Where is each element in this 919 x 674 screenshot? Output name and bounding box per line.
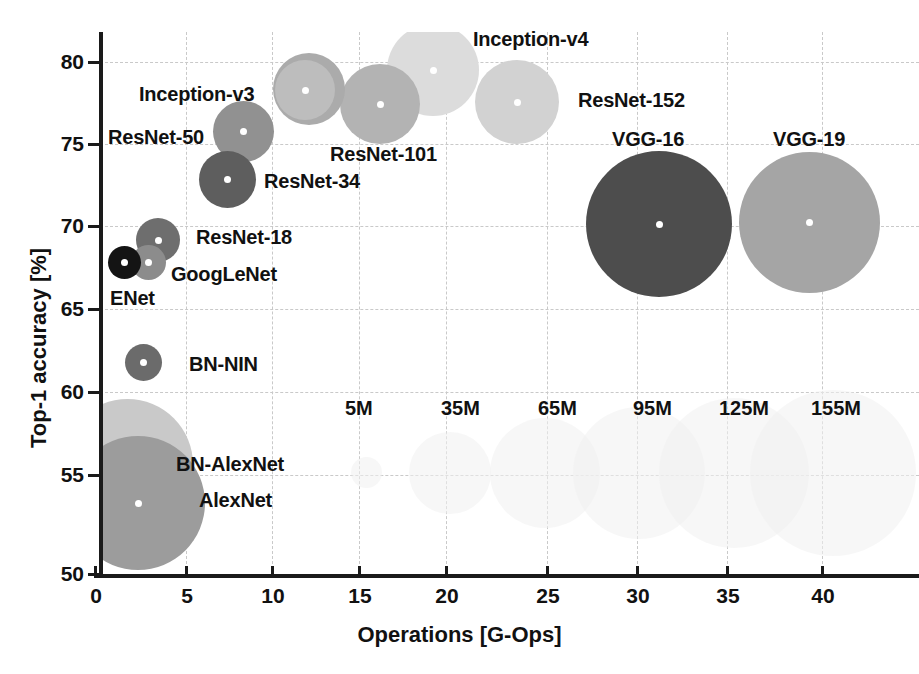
size-legend-label-65m: 65M	[538, 397, 577, 420]
label-resnet-101: ResNet-101	[330, 143, 437, 166]
label-resnet-152: ResNet-152	[578, 89, 685, 112]
bubble-center-dot	[430, 67, 437, 74]
y-tick-label-80: 80	[38, 50, 84, 74]
size-legend-bubble-5m	[351, 457, 382, 488]
y-tick-70	[88, 225, 100, 228]
x-tick-label-0: 0	[71, 584, 121, 608]
bubble-center-dot	[140, 359, 147, 366]
bubble-inception-v4[interactable]	[475, 60, 559, 144]
size-legend-label-5m: 5M	[345, 397, 373, 420]
y-tick-label-75: 75	[38, 132, 84, 156]
y-tick-label-50: 50	[38, 562, 84, 586]
y-tick-55	[88, 474, 100, 477]
gridline-horizontal	[100, 392, 919, 393]
bubble-enet[interactable]	[108, 246, 141, 279]
x-axis-line	[95, 574, 919, 578]
bubble-center-dot	[806, 219, 813, 226]
x-tick-25	[546, 566, 549, 578]
y-axis-line	[99, 32, 103, 576]
x-tick-15	[358, 566, 361, 578]
bubble-center-dot	[121, 259, 128, 266]
x-tick-10	[271, 566, 274, 578]
x-tick-label-20: 20	[422, 584, 472, 608]
bubble-center-dot	[155, 237, 162, 244]
size-legend-label-35m: 35M	[441, 397, 480, 420]
x-tick-5	[185, 566, 188, 578]
bubble-vgg-16[interactable]	[586, 151, 732, 297]
gridline-vertical	[272, 32, 273, 574]
y-axis-title: Top-1 accuracy [%]	[26, 248, 52, 448]
x-tick-label-40: 40	[798, 584, 848, 608]
x-tick-label-15: 15	[335, 584, 385, 608]
label-vgg-16: VGG-16	[612, 128, 684, 151]
x-tick-20	[445, 566, 448, 578]
x-tick-40	[821, 566, 824, 578]
bubble-bn-nin[interactable]	[125, 344, 162, 381]
label-inception-v3: Inception-v3	[139, 83, 254, 106]
bubble-inception-v3[interactable]	[275, 60, 335, 120]
x-tick-label-10: 10	[248, 584, 298, 608]
bubble-center-dot	[302, 87, 309, 94]
bubble-resnet-34[interactable]	[199, 151, 256, 208]
x-tick-label-35: 35	[703, 584, 753, 608]
y-tick-75	[88, 143, 100, 146]
bubble-center-dot	[145, 259, 152, 266]
label-inception-v4: Inception-v4	[473, 28, 588, 51]
size-legend-label-155m: 155M	[811, 397, 861, 420]
y-tick-65	[88, 308, 100, 311]
label-resnet-34: ResNet-34	[264, 170, 360, 193]
y-tick-label-70: 70	[38, 214, 84, 238]
bubble-center-dot	[240, 128, 247, 135]
x-tick-label-25: 25	[523, 584, 573, 608]
x-tick-30	[636, 566, 639, 578]
label-vgg-19: VGG-19	[773, 128, 845, 151]
y-tick-60	[88, 391, 100, 394]
x-axis-title: Operations [G-Ops]	[0, 622, 919, 648]
bubble-center-dot	[135, 500, 142, 507]
gridline-horizontal	[100, 309, 919, 310]
x-tick-label-5: 5	[162, 584, 212, 608]
bubble-vgg-19[interactable]	[739, 152, 880, 293]
label-googlenet: GoogLeNet	[171, 263, 277, 286]
size-legend-label-95m: 95M	[633, 397, 672, 420]
label-enet: ENet	[110, 287, 155, 310]
label-bn-nin: BN-NIN	[189, 353, 258, 376]
bubble-center-dot	[514, 99, 521, 106]
x-tick-35	[726, 566, 729, 578]
label-bn-alexnet: BN-AlexNet	[176, 453, 284, 476]
label-alexnet: AlexNet	[199, 489, 272, 512]
size-legend-label-125m: 125M	[719, 397, 769, 420]
bubble-resnet-101[interactable]	[340, 64, 420, 144]
bubble-center-dot	[377, 101, 384, 108]
chart-canvas: Inception-v3 ResNet-50 ResNet-34 ResNet-…	[0, 0, 919, 674]
label-resnet-18: ResNet-18	[196, 226, 292, 249]
x-tick-0	[94, 566, 97, 578]
x-tick-label-30: 30	[613, 584, 663, 608]
size-legend-bubble-35m	[409, 432, 491, 514]
y-tick-label-55: 55	[38, 463, 84, 487]
bubble-center-dot	[656, 221, 663, 228]
label-resnet-50: ResNet-50	[108, 126, 204, 149]
bubble-center-dot	[224, 176, 231, 183]
y-tick-80	[88, 61, 100, 64]
